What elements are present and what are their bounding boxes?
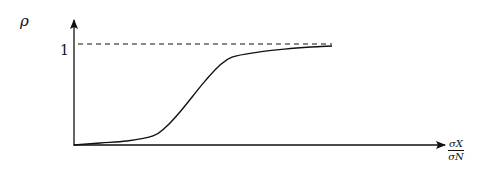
chart-canvas xyxy=(0,0,477,170)
data-curve xyxy=(74,46,332,145)
